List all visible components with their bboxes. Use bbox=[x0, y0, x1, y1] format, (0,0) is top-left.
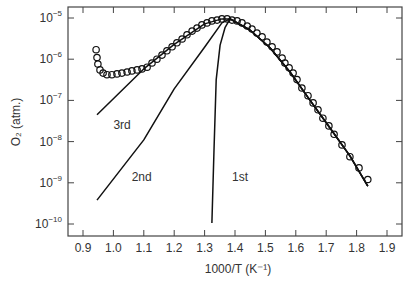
x-tick-label: 1.5 bbox=[257, 241, 274, 255]
measured-markers bbox=[93, 16, 371, 183]
x-tick-label: 1.4 bbox=[227, 241, 244, 255]
annotation-1st: 1st bbox=[232, 170, 249, 184]
chart: 0.91.01.11.21.31.41.51.61.71.81.9 10−510… bbox=[0, 0, 411, 284]
model-line-1st bbox=[212, 19, 368, 223]
data-point bbox=[365, 176, 371, 182]
data-point bbox=[259, 34, 265, 40]
y-tick-label: 10−8 bbox=[40, 133, 63, 149]
x-tick-label: 0.9 bbox=[75, 241, 92, 255]
y-tick-label: 10−9 bbox=[40, 174, 63, 190]
y-tick-label: 10−10 bbox=[35, 215, 62, 231]
y-tick-label: 10−6 bbox=[40, 50, 63, 66]
x-tick-label: 1.2 bbox=[166, 241, 183, 255]
model-lines bbox=[97, 19, 368, 223]
annotation-3rd: 3rd bbox=[113, 118, 130, 132]
model-line-3rd bbox=[97, 19, 368, 186]
x-tick-label: 1.9 bbox=[379, 241, 396, 255]
y-axis-label: O₂ (atm.) bbox=[9, 98, 23, 147]
data-point bbox=[274, 49, 280, 55]
x-tick-label: 1.6 bbox=[287, 241, 304, 255]
y-tick-label: 10−5 bbox=[40, 9, 63, 25]
x-tick-label: 1.0 bbox=[105, 241, 122, 255]
line-annotations: 3rd2nd1st bbox=[113, 118, 248, 184]
x-tick-label: 1.1 bbox=[135, 241, 152, 255]
x-tick-label: 1.8 bbox=[348, 241, 365, 255]
x-axis-label: 1000/T (K⁻¹) bbox=[205, 262, 271, 276]
y-axis: 10−510−610−710−810−910−10 bbox=[35, 9, 402, 231]
data-point bbox=[93, 47, 99, 53]
x-tick-label: 1.3 bbox=[196, 241, 213, 255]
data-point bbox=[94, 54, 100, 60]
annotation-2nd: 2nd bbox=[132, 170, 152, 184]
y-tick-label: 10−7 bbox=[40, 91, 63, 107]
x-tick-label: 1.7 bbox=[318, 241, 335, 255]
